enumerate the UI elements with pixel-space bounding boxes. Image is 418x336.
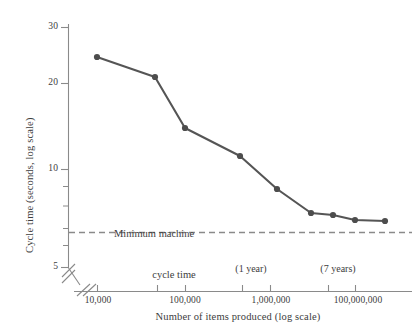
y-tick-label-5: 5 <box>34 261 58 272</box>
minimum-cycle-time-note-line-2: cycle time <box>114 268 234 282</box>
chart-figure: 30 20 10 5 10,000 100,000 1,000,000 100,… <box>0 0 418 336</box>
cycle-time-series-markers <box>94 54 388 224</box>
y-tick-label-30: 30 <box>34 21 58 32</box>
x-tick-label-100000000: 100,000,000 <box>320 295 396 306</box>
annotation-seven-years: (7 years) <box>300 263 376 275</box>
y-axis-title: Cycle time (seconds, log scale) <box>24 117 36 253</box>
y-major-ticks <box>61 28 69 268</box>
y-minor-ticks <box>63 187 69 246</box>
minimum-cycle-time-note: Minimum machine cycle time <box>114 200 234 309</box>
y-tick-label-20: 20 <box>34 77 58 88</box>
x-tick-label-1000000: 1,000,000 <box>238 295 304 306</box>
x-axis-title: Number of items produced (log scale) <box>128 311 348 323</box>
minimum-cycle-time-note-line-1: Minimum machine <box>114 227 234 241</box>
y-tick-label-10: 10 <box>34 163 58 174</box>
cycle-time-series-line <box>97 57 385 221</box>
